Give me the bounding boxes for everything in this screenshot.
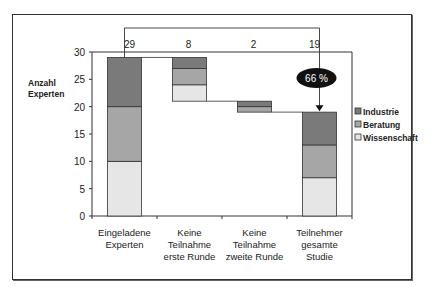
bar-segment-wissenschaft [303,178,337,216]
x-tick-label: Teilnehmer [296,227,342,238]
y-tick-label: 10 [74,156,86,167]
x-tick-label: Teilnahme [233,239,276,250]
bar-segment-industrie [238,101,272,106]
legend-label-beratung: Beratung [363,120,400,130]
bar-segment-beratung [108,107,142,162]
x-tick-label: Teilnahme [168,239,211,250]
total-label: 19 [309,39,321,50]
bar-segment-wissenschaft [173,85,207,101]
bar-segment-beratung [303,145,337,178]
y-tick-label: 15 [74,129,86,140]
bar-segment-industrie [173,57,207,68]
y-tick-label: 20 [74,102,86,113]
x-tick-label: gesamte [301,239,337,250]
y-axis-label: Experten [28,89,64,99]
x-tick-label: zweite Runde [226,251,284,262]
x-tick-label: Studie [306,251,333,262]
x-tick-label: Keine [242,227,266,238]
y-tick-label: 25 [74,74,86,85]
legend-swatch [355,108,361,114]
legend-swatch [355,134,361,140]
y-axis-label: Anzahl [28,78,56,88]
legend-label-industrie: Industrie [363,107,399,117]
bar-segment-wissenschaft [108,161,142,216]
x-tick-label: Keine [177,227,201,238]
y-tick-label: 0 [79,211,85,222]
waterfall-chart: 051015202530AnzahlExpertenEingeladeneExp… [0,0,448,293]
total-label: 8 [186,39,192,50]
percentage-label: 66 % [305,73,328,84]
arrow-head-icon [316,105,324,111]
total-label: 29 [124,39,136,50]
y-tick-label: 5 [79,184,85,195]
bar-segment-industrie [303,112,337,145]
x-tick-label: Experten [105,239,143,250]
x-tick-label: erste Runde [164,251,216,262]
bar-segment-industrie [108,57,142,106]
bar-segment-beratung [238,107,272,112]
bracket-line [125,28,320,106]
total-label: 2 [251,39,257,50]
y-tick-label: 30 [74,47,86,58]
legend-label-wissenschaft: Wissenschaft [363,133,418,143]
bar-segment-beratung [173,68,207,84]
legend-swatch [355,121,361,127]
x-tick-label: Eingeladene [98,227,151,238]
